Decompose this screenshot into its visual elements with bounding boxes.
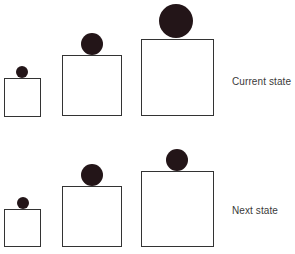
current-state-label: Current state [232,76,291,87]
box-small [4,209,41,247]
ball-large [166,149,188,171]
ball-small [16,66,28,78]
ball-medium [81,164,103,186]
box-large [141,171,214,247]
next-state-label: Next state [232,205,278,216]
ball-small [17,197,29,209]
box-medium [62,55,122,116]
box-medium [62,186,122,247]
ball-medium [81,33,103,55]
ball-large [159,4,193,38]
state-diagram: Current state Next state [0,0,295,254]
box-small [4,78,41,117]
box-large [141,39,214,116]
